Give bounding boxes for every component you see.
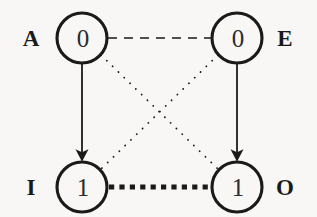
node-label-i: I — [18, 176, 44, 199]
diagram-canvas: 0 0 1 1 A E I O — [0, 0, 317, 217]
node-label-e: E — [272, 27, 298, 50]
node-label-o: O — [272, 176, 298, 199]
node-value-i: 1 — [57, 175, 109, 200]
graph-svg — [0, 0, 317, 217]
node-value-a: 0 — [57, 26, 109, 51]
node-value-e: 0 — [212, 26, 264, 51]
node-label-a: A — [18, 27, 44, 50]
node-value-o: 1 — [212, 175, 264, 200]
